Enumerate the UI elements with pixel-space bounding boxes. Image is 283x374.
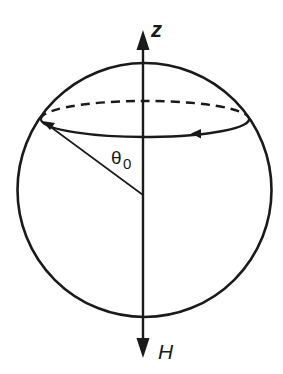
- precession-direction-arrow-icon: [191, 129, 201, 139]
- z-arrow-head-icon: [137, 30, 150, 50]
- theta-symbol-label: θ: [111, 147, 122, 168]
- field-h-label: H: [158, 340, 174, 363]
- precession-circle-back: [41, 101, 249, 120]
- sphere-diagram: z H θ 0: [0, 0, 283, 374]
- z-axis-label: z: [150, 17, 162, 42]
- precession-circle-front: [41, 118, 249, 137]
- theta-subscript-label: 0: [123, 155, 131, 172]
- h-arrow-head-icon: [137, 338, 150, 358]
